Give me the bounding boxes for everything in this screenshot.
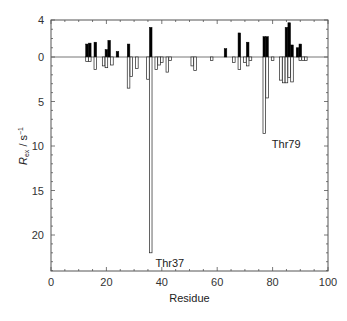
- bar-negative: [210, 57, 213, 61]
- bar-negative: [149, 57, 152, 253]
- bars-positive: [86, 23, 302, 57]
- bar-negative: [194, 57, 197, 70]
- bar-positive: [127, 44, 130, 57]
- bar-positive: [149, 27, 152, 57]
- bar-negative: [102, 57, 105, 66]
- x-tick-label: 40: [156, 276, 168, 288]
- x-tick-label: 80: [266, 276, 278, 288]
- bar-negative: [282, 57, 285, 83]
- x-axis-title: Residue: [169, 292, 209, 304]
- bar-negative: [271, 57, 274, 61]
- bar-negative: [161, 57, 164, 62]
- bar-annotation: Thr79: [272, 138, 301, 150]
- bar-negative: [288, 57, 291, 77]
- bar-negative: [291, 57, 294, 82]
- bar-negative: [111, 57, 114, 65]
- bar-negative: [249, 57, 252, 61]
- y-tick-label: 10: [32, 140, 44, 152]
- y-axis-title-main: R: [17, 157, 29, 165]
- bar-negative: [105, 57, 108, 68]
- bar-positive: [224, 49, 227, 57]
- y-axis-title-unit: / s: [17, 134, 29, 149]
- bar-negative: [158, 57, 161, 65]
- bar-positive: [266, 37, 269, 57]
- y-axis-title-sup: −1: [17, 127, 24, 135]
- bar-negative: [238, 57, 241, 69]
- y-tick-label: 0: [38, 51, 44, 63]
- bar-positive: [238, 33, 241, 57]
- y-axis-title: Rex / s−1: [17, 127, 30, 165]
- bar-positive: [116, 51, 119, 57]
- x-tick-label: 20: [100, 276, 112, 288]
- bar-positive: [263, 37, 266, 57]
- bar-negative: [266, 57, 269, 98]
- bar-positive: [296, 48, 299, 57]
- bar-positive: [246, 42, 249, 57]
- bar-positive: [285, 27, 288, 57]
- x-tick-label: 60: [211, 276, 223, 288]
- bar-negative: [130, 57, 133, 77]
- bar-positive: [88, 43, 91, 57]
- bar-negative: [147, 57, 150, 79]
- bar-negative: [88, 57, 91, 61]
- bar-negative: [155, 57, 158, 69]
- bar-negative: [299, 57, 302, 61]
- bar-negative: [244, 57, 247, 62]
- x-tick-label: 100: [319, 276, 337, 288]
- bar-negative: [263, 57, 266, 134]
- y-tick-label: 5: [38, 96, 44, 108]
- bar-negative: [166, 57, 169, 72]
- bar-negative: [246, 57, 249, 66]
- bar-negative: [86, 57, 89, 61]
- x-tick-label: 0: [48, 276, 54, 288]
- bar-positive: [288, 23, 291, 57]
- bar-negative: [285, 57, 288, 83]
- bar-positive: [94, 42, 97, 57]
- bar-positive: [299, 44, 302, 57]
- bar-negative: [233, 57, 236, 62]
- bar-negative: [191, 57, 194, 66]
- bar-negative: [169, 57, 172, 61]
- bar-negative: [127, 57, 130, 88]
- bar-negative: [94, 57, 97, 69]
- bars-negative: [86, 57, 307, 253]
- bar-negative: [305, 57, 308, 61]
- bar-negative: [280, 57, 283, 80]
- bar-positive: [291, 45, 294, 57]
- bar-positive: [86, 44, 89, 57]
- y-tick-label: 4: [38, 14, 44, 26]
- annotations: Thr37Thr79: [155, 138, 300, 269]
- svg-text:Rex / s−1: Rex / s−1: [17, 127, 30, 165]
- y-tick-label: 15: [32, 185, 44, 197]
- bar-positive: [108, 40, 111, 57]
- bar-negative: [136, 57, 139, 69]
- rex-bar-chart: 020406080100 405101520 Thr37Thr79 Residu…: [0, 0, 347, 321]
- bar-positive: [105, 50, 108, 57]
- bar-annotation: Thr37: [155, 257, 184, 269]
- bar-negative: [302, 57, 305, 61]
- y-tick-label: 20: [32, 229, 44, 241]
